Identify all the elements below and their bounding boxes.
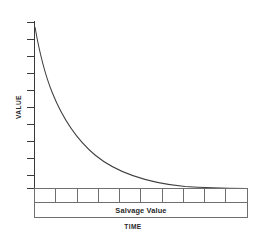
salvage-box-cells <box>56 189 226 203</box>
depreciation-curve <box>35 27 247 189</box>
x-axis-label: TIME <box>124 223 142 230</box>
depreciation-chart: Salvage Value TIME VALUE <box>0 0 260 241</box>
salvage-value-label: Salvage Value <box>115 206 166 215</box>
chart-canvas: Salvage Value TIME VALUE <box>0 0 260 241</box>
y-axis-label: VALUE <box>15 95 22 119</box>
y-axis-ticks <box>27 23 35 189</box>
